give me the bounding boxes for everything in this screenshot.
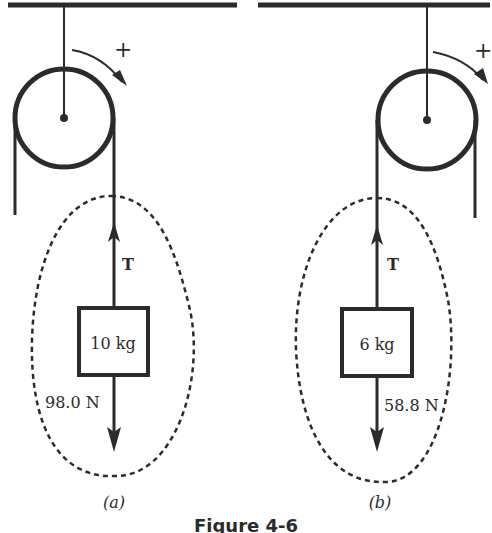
panel-b: + T 6 kg 58.8 N (b) [258, 5, 492, 512]
mass-label-b: 6 kg [359, 335, 394, 354]
panel-label-a: (a) [103, 493, 125, 512]
weight-label-a: 98.0 N [45, 393, 100, 412]
panel-label-b: (b) [369, 493, 392, 512]
rotation-sign-b: + [474, 38, 492, 63]
panel-a: + T 10 kg 98.0 N (a) [8, 5, 237, 512]
tension-label-a: T [122, 255, 134, 274]
rotation-arrowhead-b [474, 68, 488, 84]
rotation-sign-a: + [114, 37, 132, 62]
tension-label-b: T [387, 255, 399, 274]
pulley-axle-a [60, 114, 68, 122]
figure-4-6: + T 10 kg 98.0 N (a) + T 6 [0, 0, 492, 533]
mass-label-a: 10 kg [90, 334, 135, 353]
figure-caption: Figure 4-6 [194, 515, 298, 533]
pulley-axle-b [423, 116, 431, 124]
weight-label-b: 58.8 N [384, 396, 439, 415]
